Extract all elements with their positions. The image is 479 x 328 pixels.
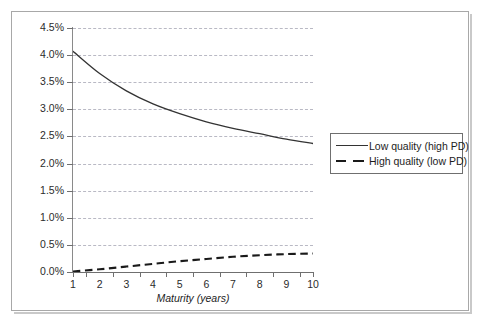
x-axis-tick — [140, 272, 141, 277]
x-axis-tick-label: 1 — [63, 278, 83, 290]
y-axis-tick-label: 0.5% — [18, 239, 64, 250]
x-axis-tick-label: 3 — [116, 278, 136, 290]
legend-solid-line-icon — [335, 140, 369, 152]
x-axis-tick — [273, 272, 274, 277]
series-line-high-quality — [73, 254, 313, 272]
series-line-low-quality — [73, 51, 313, 143]
x-axis-tick-label: 2 — [90, 278, 110, 290]
x-axis-tick — [166, 272, 167, 277]
legend-item-low-quality: Low quality (high PD) — [335, 138, 458, 153]
x-axis-title: Maturity (years) — [73, 292, 313, 304]
y-axis-tick-label: 0.0% — [18, 266, 64, 277]
x-axis-tick — [300, 272, 301, 277]
y-axis-tick-label: 1.5% — [18, 185, 64, 196]
y-axis-tick-label: 3.5% — [18, 76, 64, 87]
y-axis-tick-label: 4.0% — [18, 49, 64, 60]
x-axis-tick-label: 10 — [303, 278, 323, 290]
x-axis-tick — [313, 272, 314, 277]
x-axis-tick — [246, 272, 247, 277]
x-axis-tick — [73, 272, 74, 277]
frame-shadow-bottom — [14, 312, 472, 314]
y-axis-tick-label: 2.0% — [18, 158, 64, 169]
chart-legend: Low quality (high PD) High quality (low … — [330, 133, 463, 174]
legend-item-high-quality: High quality (low PD) — [335, 153, 458, 168]
legend-label-low-quality: Low quality (high PD) — [369, 140, 469, 152]
x-axis-tick — [220, 272, 221, 277]
x-axis-tick-label: 5 — [170, 278, 190, 290]
y-axis-tick-label: 3.0% — [18, 103, 64, 114]
legend-dashed-line-icon — [335, 155, 369, 167]
x-axis-tick-label: 4 — [143, 278, 163, 290]
x-axis-tick-label: 8 — [250, 278, 270, 290]
x-axis-tick — [86, 272, 87, 277]
x-axis-tick-label: 9 — [276, 278, 296, 290]
x-axis-tick-label: 7 — [223, 278, 243, 290]
chart-figure: 0.0%0.5%1.0%1.5%2.0%2.5%3.0%3.5%4.0%4.5%… — [0, 0, 479, 328]
legend-label-high-quality: High quality (low PD) — [369, 155, 467, 167]
y-axis-tick-label: 1.0% — [18, 212, 64, 223]
frame-shadow-right — [470, 14, 472, 313]
x-axis-tick-label: 6 — [196, 278, 216, 290]
x-axis-tick — [193, 272, 194, 277]
x-axis-tick — [113, 272, 114, 277]
series-layer — [73, 28, 313, 272]
y-axis-tick-label: 4.5% — [18, 22, 64, 33]
y-axis-tick-label: 2.5% — [18, 130, 64, 141]
